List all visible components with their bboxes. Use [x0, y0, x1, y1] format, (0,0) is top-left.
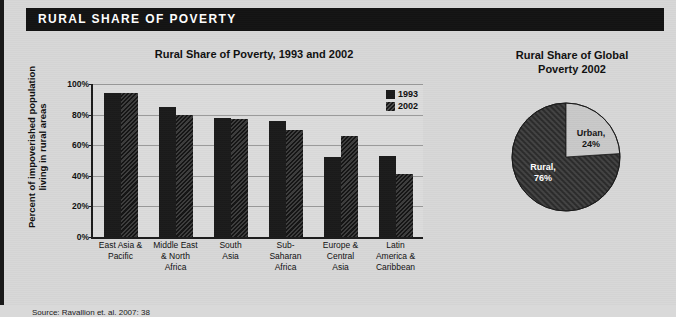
x-label-line: Pacific: [93, 251, 148, 262]
bar-group-middle-east-north-africa: [148, 84, 203, 237]
bar-chart-block: Rural Share of Poverty, 1993 and 2002 Pe…: [4, 36, 464, 298]
pie-svg: [511, 102, 621, 212]
y-tick-label-20: 20%: [72, 201, 89, 211]
y-tick-label-60: 60%: [72, 140, 89, 150]
pie-label-line: 24%: [567, 139, 615, 150]
bar-chart-y-axis-label: Percent of impoverished population livin…: [26, 62, 48, 232]
x-label-latin-america-caribbean: Latin America & Caribbean: [368, 240, 423, 273]
bar-groups: [93, 84, 423, 237]
pie-chart-block: Rural Share of Global Poverty 2002 Urban…: [464, 36, 676, 286]
x-label-sub-saharan-africa: Sub- Saharan Africa: [258, 240, 313, 273]
legend-swatch-2002-icon: [386, 102, 395, 111]
bar-2002[interactable]: [121, 93, 138, 237]
bar-chart-plot-area: 100% 80% 60% 40% 20% 0%: [91, 84, 423, 239]
x-label-middle-east-north-africa: Middle East & North Africa: [148, 240, 203, 273]
legend-label-2002: 2002: [398, 100, 418, 112]
x-label-east-asia-pacific: East Asia & Pacific: [93, 240, 148, 273]
bar-group-europe-central-asia: [313, 84, 368, 237]
x-label-south-asia: South Asia: [203, 240, 258, 273]
bar-chart-title: Rural Share of Poverty, 1993 and 2002: [89, 48, 419, 60]
bar-group-south-asia: [203, 84, 258, 237]
x-label-line: Middle East: [148, 240, 203, 251]
pie-title-line: Rural Share of Global: [482, 48, 662, 62]
legend-item-1993[interactable]: 1993: [386, 88, 418, 100]
y-tick-label-0: 0%: [77, 232, 89, 242]
pie-label-urban: Urban, 24%: [567, 128, 615, 150]
pie-chart-graphic: Urban, 24% Rural, 76%: [511, 102, 621, 212]
x-label-line: Europe &: [313, 240, 368, 251]
bar-1993[interactable]: [379, 156, 396, 237]
bar-group-sub-saharan-africa: [258, 84, 313, 237]
x-label-line: Caribbean: [368, 262, 423, 273]
bar-2002[interactable]: [176, 115, 193, 237]
x-label-line: Sub-: [258, 240, 313, 251]
x-label-line: Africa: [148, 262, 203, 273]
y-tick-label-80: 80%: [72, 110, 89, 120]
pie-label-line: 76%: [519, 173, 567, 184]
x-label-line: Central: [313, 251, 368, 262]
x-label-line: South: [203, 240, 258, 251]
legend-swatch-1993-icon: [386, 90, 395, 99]
x-label-line: Asia: [203, 251, 258, 262]
pie-label-rural: Rural, 76%: [519, 162, 567, 184]
y-tick-label-40: 40%: [72, 171, 89, 181]
tickmark-0: [89, 237, 93, 238]
x-label-line: & North: [148, 251, 203, 262]
bar-1993[interactable]: [324, 157, 341, 237]
bar-1993[interactable]: [214, 118, 231, 237]
bar-1993[interactable]: [159, 107, 176, 237]
bar-1993[interactable]: [104, 93, 121, 237]
pie-label-line: Urban,: [567, 128, 615, 139]
pie-chart-title: Rural Share of Global Poverty 2002: [482, 48, 662, 76]
bar-1993[interactable]: [269, 121, 286, 237]
bar-2002[interactable]: [231, 119, 248, 237]
bar-group-east-asia-pacific: [93, 84, 148, 237]
legend-label-1993: 1993: [398, 88, 418, 100]
page-title: RURAL SHARE OF POVERTY: [38, 12, 237, 26]
bar-2002[interactable]: [341, 136, 358, 237]
section-header-banner: RURAL SHARE OF POVERTY: [26, 8, 664, 31]
x-label-line: Saharan: [258, 251, 313, 262]
x-label-europe-central-asia: Europe & Central Asia: [313, 240, 368, 273]
source-note: Source: Ravallion et. al. 2007: 38: [32, 308, 150, 317]
pie-label-line: Rural,: [519, 162, 567, 173]
bar-chart-legend: 1993 2002: [386, 88, 418, 112]
x-label-line: Latin: [368, 240, 423, 251]
pie-title-line: Poverty 2002: [482, 62, 662, 76]
y-tick-label-100: 100%: [67, 79, 89, 89]
x-label-line: America &: [368, 251, 423, 262]
bar-2002[interactable]: [396, 174, 413, 237]
x-label-line: Africa: [258, 262, 313, 273]
x-label-line: East Asia &: [93, 240, 148, 251]
x-label-line: Asia: [313, 262, 368, 273]
legend-item-2002[interactable]: 2002: [386, 100, 418, 112]
x-axis-labels: East Asia & Pacific Middle East & North …: [93, 240, 423, 273]
bar-2002[interactable]: [286, 130, 303, 237]
